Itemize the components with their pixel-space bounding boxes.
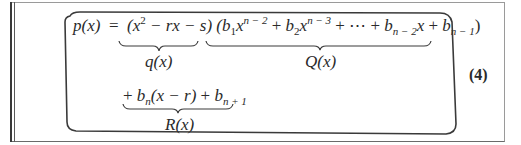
- brace-label-Q: Q(x): [305, 53, 336, 70]
- q-factor: (x2 − rx − s): [127, 16, 212, 35]
- equals-sign: =: [105, 16, 123, 35]
- brace-label-R: R(x): [165, 116, 194, 133]
- underbrace-R: [123, 104, 233, 113]
- equation-number: (4): [469, 67, 488, 83]
- equation-line-2: + bn(x − r) + bn + 1: [123, 87, 247, 104]
- lhs: p(x): [73, 16, 100, 35]
- underbrace-q: [119, 41, 198, 51]
- Q-factor: (b1xn − 2 + b2xn − 3 + ⋯ + bn − 2x + bn …: [216, 16, 480, 35]
- underbrace-Q: [206, 41, 431, 50]
- brace-label-q: q(x): [145, 53, 172, 70]
- equation-line-1: p(x) = (x2 − rx − s) (b1xn − 2 + b2xn − …: [73, 17, 480, 34]
